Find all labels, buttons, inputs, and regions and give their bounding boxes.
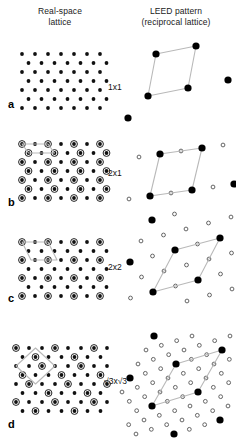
leed-integer-spot [194,388,201,395]
adsorbate-core-dot [20,178,24,182]
leed-fractional-spot [181,371,185,375]
leed-fractional-spot [120,390,124,394]
adsorbate-core-dot [53,346,57,350]
leed-integer-spot [224,76,231,83]
leed-integer-spot [149,288,156,295]
leed-fractional-spot [213,339,217,343]
leed-fractional-spot [151,357,155,361]
substrate-dot [66,346,70,350]
leed-fractional-spot [136,362,140,366]
substrate-dot [59,160,63,164]
panel-letter-b: b [8,196,15,208]
leed-integer-spot [194,276,201,283]
leed-integer-spot [230,180,236,187]
substrate-dot [47,409,51,413]
substrate-dot [33,106,37,110]
substrate-dot [20,106,24,110]
leed-fractional-spot [159,367,163,371]
panel-letter-d: d [8,418,15,430]
substrate-dot [40,346,44,350]
figure-canvas [0,0,236,441]
substrate-dot [105,97,109,101]
leed-fractional-spot [189,381,193,385]
substrate-dot [79,79,83,83]
substrate-dot [85,240,89,244]
leed-fractional-spot [149,427,153,431]
order-label-1x1: 1x1 [108,82,122,92]
adsorbate-core-dot [20,160,24,164]
leed-integer-spot [148,216,155,223]
leed-fractional-spot [230,287,234,291]
substrate-dot [66,364,70,368]
leed-fractional-spot [173,385,177,389]
substrate-dot [66,79,70,83]
adsorbate-core-dot [20,276,24,280]
leed-integer-spot [218,346,225,353]
adsorbate-core-dot [20,294,24,298]
substrate-dot [66,285,70,289]
leed-fractional-spot [230,251,234,255]
adsorbate-core-dot [73,409,77,413]
substrate-dot [98,52,102,56]
substrate-dot [92,79,96,83]
adsorbate-core-dot [40,364,44,368]
substrate-dot [98,70,102,74]
adsorbate-core-dot [98,178,102,182]
leed-fractional-spot [219,272,223,276]
substrate-dot [72,106,76,110]
substrate-dot [79,400,83,404]
leed-fractional-spot [203,423,207,427]
panel-letter-c: c [8,292,14,304]
substrate-dot [79,97,83,101]
leed-integer-spot [152,50,159,57]
substrate-dot [73,391,77,395]
leed-figure: Real-space lattice LEED pattern (recipro… [0,0,236,441]
substrate-dot [85,160,89,164]
substrate-dot [59,106,63,110]
leed-integer-spot [188,186,195,193]
substrate-dot [105,285,109,289]
leed-integer-spot [126,258,133,265]
substrate-dot [66,400,70,404]
substrate-dot [59,196,63,200]
substrate-dot [46,70,50,74]
substrate-dot [105,364,109,368]
leed-fractional-spot [229,215,233,219]
leed-fractional-spot [185,263,189,267]
adsorbate-core-dot [79,169,83,173]
leed-fractional-spot [143,395,147,399]
leed-fractional-spot [221,143,225,147]
order-label-2x1: 2x1 [108,168,122,178]
substrate-dot [66,249,70,253]
leed-fractional-spot [187,427,191,431]
substrate-dot [33,178,37,182]
substrate-dot [66,151,70,155]
leed-fractional-spot [184,227,188,231]
substrate-dot [27,267,31,271]
leed-fractional-spot [197,343,201,347]
adsorbate-core-dot [105,187,109,191]
adsorbate-core-dot [72,258,76,262]
leed-fractional-spot [143,371,147,375]
adsorbate-core-dot [98,294,102,298]
adsorbate-core-dot [27,169,31,173]
substrate-dot [72,70,76,74]
substrate-dot [66,169,70,173]
substrate-dot [92,169,96,173]
substrate-dot [59,178,63,182]
substrate-dot [72,88,76,92]
adsorbate-core-dot [46,178,50,182]
substrate-dot [85,178,89,182]
adsorbate-core-dot [66,382,70,386]
substrate-dot [59,70,63,74]
adsorbate-core-dot [72,294,76,298]
substrate-dot [85,106,89,110]
substrate-dot [27,97,31,101]
substrate-dot [92,382,96,386]
leed-fractional-spot [219,395,223,399]
leed-fractional-spot [135,385,139,389]
substrate-dot [79,382,83,386]
leed-fractional-spot [185,299,189,303]
substrate-dot [85,52,89,56]
adsorbate-core-dot [72,142,76,146]
